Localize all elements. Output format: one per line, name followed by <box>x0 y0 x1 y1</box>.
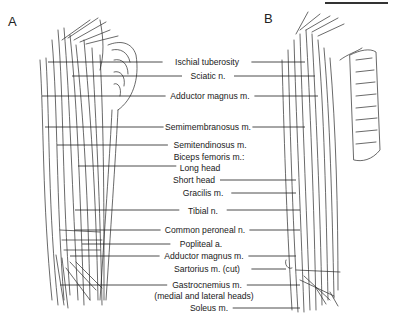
label-tibial-n: Tibial n. <box>188 206 218 216</box>
label-biceps-femoris: Biceps femoris m.: <box>174 152 245 162</box>
anatomy-figure: AB Ischial tuberositySciatic n.Adductor … <box>0 0 393 322</box>
label-gracilis: Gracilis m. <box>183 188 224 198</box>
panel-letter-a: A <box>8 14 17 29</box>
panel-b-drawing <box>282 12 380 312</box>
label-semimembranosus: Semimembranosus m. <box>165 122 251 132</box>
label-short-head: Short head <box>173 175 215 185</box>
label-adductor-magnus-2: Adductor magnus m. <box>164 251 243 261</box>
label-ischial-tuberosity: Ischial tuberosity <box>175 57 239 67</box>
label-adductor-magnus-1: Adductor magnus m. <box>170 91 249 101</box>
label-popliteal-a: Popliteal a. <box>180 239 223 249</box>
label-soleus: Soleus m. <box>190 303 228 313</box>
label-sciatic-n: Sciatic n. <box>191 71 226 81</box>
label-sartorius: Sartorius m. (cut) <box>174 264 240 274</box>
label-gastrocnemius-sub: (medial and lateral heads) <box>154 291 253 301</box>
label-gastrocnemius: Gastrocnemius m. <box>172 280 242 290</box>
label-long-head: Long head <box>180 163 221 173</box>
label-common-peroneal-n: Common peroneal n. <box>165 225 245 235</box>
label-semitendinosus: Semitendinosus m. <box>173 140 246 150</box>
panel-letter-b: B <box>264 11 273 26</box>
panel-a-drawing <box>40 18 137 308</box>
